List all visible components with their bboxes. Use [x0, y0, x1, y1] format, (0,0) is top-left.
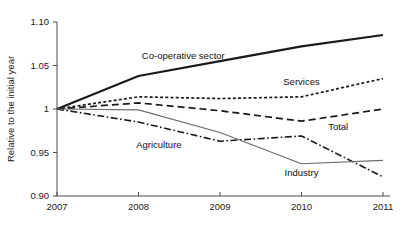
series-label-agriculture: Agriculture: [136, 139, 181, 150]
y-tick-label: 1.05: [31, 60, 50, 71]
series-label-co-operative-sector: Co-operative sector: [142, 50, 225, 61]
y-axis-title: Relative to the initial year: [5, 56, 16, 162]
chart-figure: 1.101.0510.950.90 20072008200920102011 C…: [0, 0, 408, 226]
x-tick-label: 2010: [291, 201, 312, 212]
line-chart: 1.101.0510.950.90 20072008200920102011 C…: [0, 0, 408, 226]
y-tick-label: 1.10: [31, 16, 50, 27]
series-line-industry: [57, 109, 383, 164]
x-tick-label: 2007: [46, 201, 67, 212]
series-label-services: Services: [283, 76, 320, 87]
x-tick-label: 2011: [373, 201, 393, 212]
y-tick-label: 0.95: [31, 147, 50, 158]
series-line-total: [57, 103, 383, 121]
y-axis-ticks: 1.101.0510.950.90: [31, 16, 58, 201]
y-tick-label: 1: [44, 103, 49, 114]
x-tick-label: 2008: [128, 201, 149, 212]
series-line-services: [57, 79, 383, 109]
x-tick-label: 2009: [209, 201, 230, 212]
series-labels: Co-operative sectorServicesTotalAgricult…: [136, 50, 348, 178]
series-label-total: Total: [328, 121, 348, 132]
y-tick-label: 0.90: [31, 190, 50, 201]
x-axis-ticks: 20072008200920102011: [46, 192, 393, 212]
series-line-agriculture: [57, 109, 383, 177]
series-label-industry: Industry: [285, 167, 319, 178]
